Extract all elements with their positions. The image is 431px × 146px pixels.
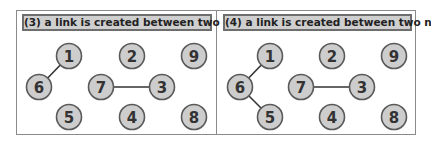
node-3: 3: [350, 75, 375, 100]
node-7: 7: [89, 75, 114, 100]
svg-text:9: 9: [389, 48, 399, 66]
svg-text:6: 6: [34, 79, 44, 97]
svg-text:1: 1: [265, 48, 275, 66]
svg-text:8: 8: [189, 109, 199, 127]
node-8: 8: [182, 105, 207, 130]
node-8: 8: [382, 105, 407, 130]
svg-text:9: 9: [189, 48, 199, 66]
svg-text:5: 5: [64, 109, 74, 127]
svg-text:8: 8: [389, 109, 399, 127]
svg-text:4: 4: [327, 109, 337, 127]
svg-text:2: 2: [127, 48, 137, 66]
node-9: 9: [382, 44, 407, 69]
node-1: 1: [258, 44, 283, 69]
svg-text:1: 1: [64, 48, 74, 66]
node-5: 5: [258, 105, 283, 130]
node-4: 4: [320, 105, 345, 130]
svg-text:2: 2: [327, 48, 337, 66]
node-7: 7: [289, 75, 314, 100]
node-6: 6: [228, 75, 253, 100]
node-9: 9: [182, 44, 207, 69]
node-1: 1: [57, 44, 82, 69]
node-6: 6: [27, 75, 52, 100]
svg-text:5: 5: [265, 109, 275, 127]
svg-text:4: 4: [127, 109, 137, 127]
node-3: 3: [150, 75, 175, 100]
svg-text:6: 6: [235, 79, 245, 97]
svg-text:3: 3: [157, 79, 167, 97]
svg-text:3: 3: [357, 79, 367, 97]
svg-text:7: 7: [96, 79, 106, 97]
node-2: 2: [120, 44, 145, 69]
node-4: 4: [120, 105, 145, 130]
nodes: 129673548129673548: [27, 44, 407, 130]
node-5: 5: [57, 105, 82, 130]
node-2: 2: [320, 44, 345, 69]
network-graph: 129673548129673548: [0, 0, 431, 146]
svg-text:7: 7: [296, 79, 306, 97]
